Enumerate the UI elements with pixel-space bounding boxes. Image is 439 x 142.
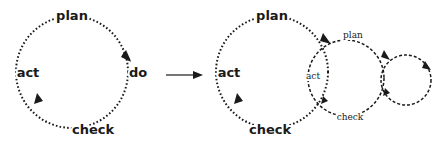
label-plan: plan [343,30,363,40]
right-small-cycle [381,55,431,105]
left-pdca-cycle: plan do act check [16,8,147,137]
label-act: act [17,65,40,80]
arrowhead-icon [321,96,328,104]
transition-arrow [166,71,203,79]
arrowhead-icon [34,93,43,104]
label-plan: plan [256,8,288,23]
label-do: do [129,65,147,80]
label-act: act [218,65,241,80]
arrowhead-icon [234,93,243,104]
right-medium-cycle: plan act check [306,30,390,122]
small-cycle-ring [381,55,431,105]
label-act: act [306,71,320,81]
label-check: check [249,122,291,137]
label-check: check [72,122,114,137]
label-check: check [337,112,364,122]
pdca-diagram: plan do act check plan act check plan ac… [0,0,439,142]
label-plan: plan [56,8,88,23]
arrowhead-icon [381,50,390,60]
arrow-right-icon [193,71,203,79]
arrowhead-icon [320,33,331,44]
